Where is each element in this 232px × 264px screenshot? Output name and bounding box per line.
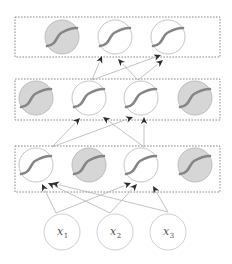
output-layer-unit-2 [98, 20, 132, 54]
neural-network-diagram: x1x2x3 [0, 0, 232, 264]
hidden-layer-2-unit-3 [124, 81, 158, 115]
hidden-units [19, 20, 212, 182]
connection-line [59, 185, 168, 212]
connection-line [156, 192, 168, 212]
hidden-layer-2-unit-4-dropped [178, 81, 212, 115]
hidden-layer-1-unit-4-dropped [178, 148, 212, 182]
arrowhead-icon [141, 117, 147, 124]
connection-line [45, 190, 56, 213]
connections [42, 54, 168, 213]
connection-line [54, 186, 110, 213]
connection-line [52, 123, 75, 147]
connection-line [110, 189, 132, 213]
connection-line [52, 119, 126, 147]
hidden-layer-1-unit-1 [19, 148, 53, 182]
input-node-2: x2 [97, 214, 133, 250]
arrowhead-icon [153, 186, 159, 194]
input-node-1: x1 [44, 214, 80, 250]
input-nodes: x1x2x3 [44, 214, 186, 250]
arrowhead-icon [156, 60, 164, 67]
hidden-layer-2-unit-2 [72, 81, 106, 115]
arrowhead-icon [125, 116, 133, 122]
input-node-3: x3 [150, 214, 186, 250]
output-layer-unit-3 [151, 20, 185, 54]
hidden-layer-1-unit-3 [124, 148, 158, 182]
arrowhead-icon [103, 117, 111, 124]
hidden-layer-1-unit-2-dropped [72, 148, 106, 182]
connection-line [109, 121, 144, 147]
connection-line [138, 64, 158, 80]
output-layer-unit-1-dropped [45, 20, 79, 54]
hidden-layer-2-unit-1-dropped [19, 81, 53, 115]
